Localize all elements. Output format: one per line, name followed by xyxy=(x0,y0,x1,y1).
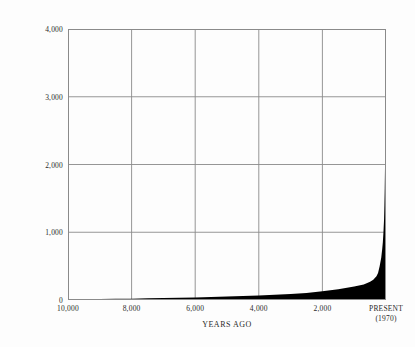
chart-canvas xyxy=(68,29,386,300)
x-tick-label: 10,000 xyxy=(57,304,79,313)
x-tick-label: 8,000 xyxy=(123,304,141,313)
gridlines xyxy=(68,29,386,300)
population-growth-chart: POPULATION (MILLIONS) 4,0003,0002,0001,0… xyxy=(0,0,415,347)
y-tick-label: 2,000 xyxy=(45,160,63,169)
plot-area: 4,0003,0002,0001,0000 10,0008,0006,0004,… xyxy=(68,29,386,300)
x-tick-label: 4,000 xyxy=(250,304,268,313)
x-axis-title: YEARS AGO xyxy=(68,320,386,329)
x-tick-label: 6,000 xyxy=(186,304,204,313)
y-tick-label: 1,000 xyxy=(45,228,63,237)
x-tick-label: 2,000 xyxy=(313,304,331,313)
population-area xyxy=(68,49,386,300)
y-tick-label: 3,000 xyxy=(45,92,63,101)
y-tick-label: 4,000 xyxy=(45,25,63,34)
